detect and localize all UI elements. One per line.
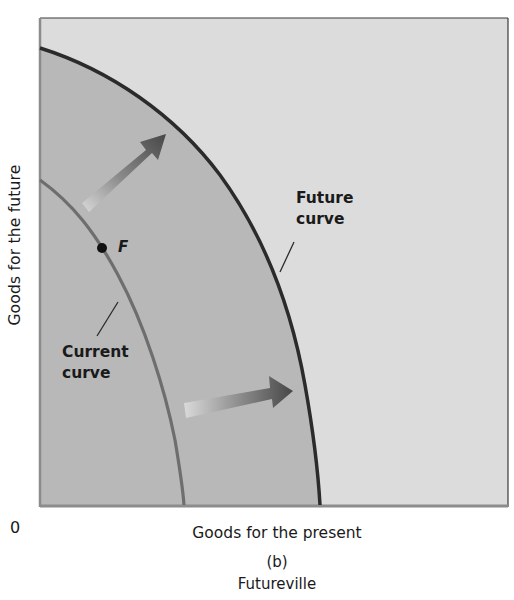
point-f-label: F <box>118 238 128 256</box>
future-curve-label-line2: curve <box>296 209 353 230</box>
current-curve-label-line2: curve <box>62 363 129 384</box>
point-f-marker <box>97 243 107 253</box>
future-curve-label-line1: Future <box>296 188 353 209</box>
chart-caption: Futureville <box>0 575 514 593</box>
current-curve-label-line1: Current <box>62 342 129 363</box>
x-axis-label: Goods for the present <box>0 524 514 542</box>
current-curve-annotation: Current curve <box>62 342 129 384</box>
ppf-chart <box>0 0 514 600</box>
future-curve-annotation: Future curve <box>296 188 353 230</box>
y-axis-label: Goods for the future <box>6 160 24 330</box>
panel-label: (b) <box>0 553 514 571</box>
